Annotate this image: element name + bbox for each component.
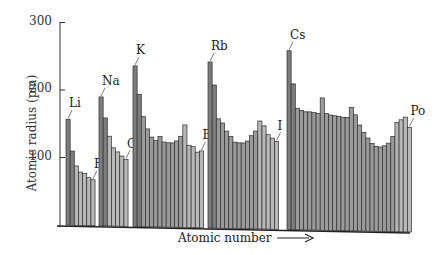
bar-Cs bbox=[287, 51, 291, 230]
annotation-leader bbox=[101, 88, 105, 96]
y-tick-300: 300 bbox=[22, 14, 52, 28]
x-axis-label: Atomic number bbox=[178, 231, 315, 245]
y-tick-100: 100 bbox=[22, 149, 52, 163]
bar-Cd bbox=[254, 131, 258, 229]
annotation-Na: Na bbox=[102, 74, 120, 88]
bar-Ce bbox=[299, 110, 303, 229]
bar-Pb bbox=[399, 120, 403, 232]
bar-Ni bbox=[170, 143, 174, 227]
bar-O bbox=[87, 178, 91, 226]
bar-Cu bbox=[175, 141, 179, 227]
x-axis-label-text: Atomic number bbox=[178, 231, 272, 245]
bar-Ag bbox=[250, 136, 254, 229]
annotation-Po: Po bbox=[410, 104, 425, 118]
annotation-Cs: Cs bbox=[290, 28, 305, 42]
bar-La bbox=[295, 108, 299, 229]
bar-Ru bbox=[237, 143, 241, 229]
bar-W bbox=[366, 138, 370, 231]
bar-Yb bbox=[349, 107, 353, 231]
bar-I bbox=[274, 142, 278, 230]
bar-C bbox=[78, 172, 82, 225]
bar-Co bbox=[166, 143, 170, 227]
bar-Os bbox=[374, 146, 378, 231]
bar-Tb bbox=[329, 115, 333, 230]
annotation-leader bbox=[135, 57, 139, 65]
bar-Ca bbox=[137, 94, 141, 226]
atomic-radius-chart: LiFNaClKBrRbICsPo Atomic radius (pm) 300… bbox=[0, 0, 436, 255]
annotation-leader bbox=[93, 171, 97, 179]
bar-Ir bbox=[378, 147, 382, 231]
bar-Sm bbox=[316, 113, 320, 230]
bar-Ga bbox=[183, 125, 187, 228]
bar-Si bbox=[111, 148, 115, 226]
bar-Na bbox=[99, 97, 103, 226]
bar-Zn bbox=[179, 136, 183, 227]
bar-Bi bbox=[403, 117, 407, 232]
bar-Au bbox=[387, 143, 391, 231]
bar-Pr bbox=[304, 112, 308, 230]
annotation-leader bbox=[276, 133, 280, 141]
bar-Tc bbox=[233, 142, 237, 228]
bar-K bbox=[133, 66, 137, 227]
bar-Rb bbox=[208, 62, 212, 228]
bar-In bbox=[258, 121, 262, 229]
bar-Dy bbox=[333, 116, 337, 231]
bar-Re bbox=[370, 144, 374, 232]
bar-Sr bbox=[212, 85, 216, 228]
bar-Hg bbox=[391, 137, 395, 232]
bar-Po bbox=[407, 127, 411, 232]
arrow-right-icon bbox=[275, 231, 315, 245]
bar-Ba bbox=[291, 84, 295, 230]
bar-S bbox=[120, 156, 124, 226]
annotation-leader bbox=[409, 118, 413, 126]
annotation-I: I bbox=[277, 119, 282, 133]
bar-Tm bbox=[345, 117, 349, 230]
bar-Zr bbox=[220, 123, 224, 228]
bar-Sc bbox=[141, 117, 145, 227]
bar-Sb bbox=[266, 135, 270, 230]
bar-Er bbox=[341, 117, 345, 230]
annotation-leader bbox=[289, 42, 293, 50]
bar-Br bbox=[199, 151, 203, 228]
bar-Al bbox=[107, 136, 111, 226]
bar-Li bbox=[66, 119, 70, 225]
bar-Nb bbox=[225, 131, 229, 228]
bar-V bbox=[150, 137, 154, 227]
annotation-K: K bbox=[136, 43, 146, 57]
annotation-Li: Li bbox=[69, 96, 81, 110]
bar-Cl bbox=[124, 160, 128, 227]
bar-Tl bbox=[395, 122, 399, 231]
bar-F bbox=[91, 180, 95, 226]
bar-Ti bbox=[145, 129, 149, 227]
bar-Be bbox=[70, 151, 74, 225]
annotation-leader bbox=[210, 53, 214, 61]
bar-Eu bbox=[320, 98, 324, 230]
bar-Pt bbox=[382, 146, 386, 232]
y-tick-200: 200 bbox=[22, 81, 52, 95]
bar-Ge bbox=[187, 145, 191, 227]
bar-Pd bbox=[245, 141, 249, 229]
bar-Sn bbox=[262, 126, 266, 229]
bar-Lu bbox=[353, 115, 357, 231]
bar-Rh bbox=[241, 143, 245, 229]
annotation-Rb: Rb bbox=[211, 39, 228, 53]
bar-Cr bbox=[154, 141, 158, 227]
bar-Gd bbox=[324, 114, 328, 231]
bar-Mo bbox=[229, 137, 233, 229]
bar-Ta bbox=[362, 133, 366, 232]
plot-area: LiFNaClKBrRbICsPo bbox=[0, 0, 436, 255]
bar-Pm bbox=[312, 113, 316, 230]
bar-Y bbox=[216, 119, 220, 228]
bar-N bbox=[83, 174, 87, 226]
bar-P bbox=[116, 152, 120, 226]
bar-Ho bbox=[337, 117, 341, 231]
bar-B bbox=[74, 166, 78, 225]
bar-Mn bbox=[158, 137, 162, 227]
bar-Se bbox=[195, 152, 199, 228]
annotation-leader bbox=[68, 110, 72, 118]
bar-Te bbox=[270, 138, 274, 229]
bar-As bbox=[191, 147, 195, 228]
annotation-leader bbox=[126, 151, 130, 159]
bar-Mg bbox=[103, 118, 107, 226]
bar-Hf bbox=[358, 125, 362, 231]
